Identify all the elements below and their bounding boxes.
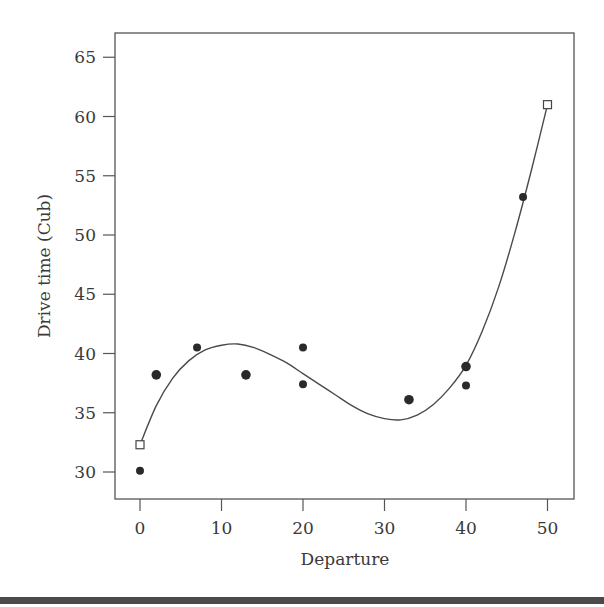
x-tick-label: 50 xyxy=(537,518,559,538)
data-point xyxy=(136,467,144,475)
data-point xyxy=(462,381,470,389)
data-point xyxy=(461,362,471,372)
data-points xyxy=(136,101,552,475)
y-axis-title: Drive time (Cub) xyxy=(34,194,54,338)
fitted-curve xyxy=(140,105,548,445)
x-tick-label: 40 xyxy=(455,518,477,538)
y-tick-label: 40 xyxy=(74,344,96,364)
x-tick-label: 20 xyxy=(292,518,314,538)
data-point xyxy=(193,344,201,352)
y-tick-label: 45 xyxy=(74,284,96,304)
data-point xyxy=(519,193,527,201)
data-point xyxy=(299,380,307,388)
y-tick-label: 60 xyxy=(74,107,96,127)
data-point xyxy=(241,370,251,380)
chart: 3035404550556065 01020304050 Departure D… xyxy=(0,0,604,607)
x-tick-label: 0 xyxy=(135,518,146,538)
y-tick-label: 50 xyxy=(74,225,96,245)
x-tick-label: 10 xyxy=(211,518,233,538)
bottom-rule xyxy=(0,597,604,604)
endpoint-marker xyxy=(136,441,144,449)
y-tick-label: 55 xyxy=(74,166,96,186)
y-tick-label: 30 xyxy=(74,462,96,482)
data-point xyxy=(299,344,307,352)
data-point xyxy=(404,395,414,405)
data-point xyxy=(152,370,162,380)
y-axis: 3035404550556065 xyxy=(74,47,115,482)
endpoint-marker xyxy=(544,101,552,109)
x-axis-title: Departure xyxy=(301,549,390,569)
y-tick-label: 65 xyxy=(74,47,96,67)
x-axis: 01020304050 xyxy=(135,499,559,538)
x-tick-label: 30 xyxy=(374,518,396,538)
y-tick-label: 35 xyxy=(74,403,96,423)
